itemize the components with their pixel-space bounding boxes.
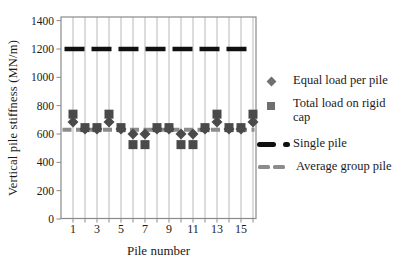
legend-label: Single pile <box>293 137 405 151</box>
legend-label: Total load on rigid cap <box>293 97 403 124</box>
pile-stiffness-figure: 020040060080010001200140013579111315 Ver… <box>0 0 407 266</box>
svg-text:200: 200 <box>37 185 55 197</box>
svg-text:9: 9 <box>166 222 172 236</box>
gray-dash-marker-icon <box>273 165 285 170</box>
legend-label: Average group pile <box>296 160 407 174</box>
svg-text:1: 1 <box>70 222 76 236</box>
square-marker-icon <box>267 102 275 110</box>
y-axis-title: Vertical pile stiffness (MN/m) <box>6 40 21 196</box>
svg-text:15: 15 <box>235 222 247 236</box>
svg-text:5: 5 <box>118 222 124 236</box>
svg-text:800: 800 <box>37 100 55 112</box>
legend: Equal load per pile Total load on rigid … <box>256 0 407 266</box>
svg-text:13: 13 <box>211 222 223 236</box>
svg-text:0: 0 <box>48 213 54 225</box>
diamond-marker-icon <box>267 77 277 87</box>
x-axis-title: Pile number <box>61 243 256 259</box>
black-dash-marker-icon <box>257 142 276 147</box>
svg-text:3: 3 <box>94 222 100 236</box>
svg-text:1200: 1200 <box>31 43 54 55</box>
svg-text:600: 600 <box>37 128 55 140</box>
svg-text:7: 7 <box>142 222 148 236</box>
legend-label: Equal load per pile <box>293 74 405 88</box>
gray-dash-marker-icon <box>258 165 270 170</box>
svg-text:1000: 1000 <box>31 71 54 83</box>
svg-text:1400: 1400 <box>31 15 54 27</box>
svg-text:11: 11 <box>187 222 199 236</box>
black-dot-marker-icon <box>283 142 290 147</box>
svg-text:400: 400 <box>37 156 55 168</box>
